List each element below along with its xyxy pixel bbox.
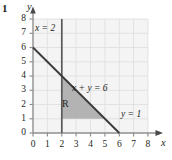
x-tick-label-2: 2 [56, 140, 68, 150]
y-tick-label-1: 1 [14, 114, 26, 124]
x-axis-arrow [156, 130, 164, 136]
problem-number: 1 [2, 3, 8, 14]
figure-container: 1 y x 0 1 2 3 4 5 6 7 8 0 1 2 3 4 5 6 7 … [0, 0, 172, 160]
x-tick-label-5: 5 [99, 140, 111, 150]
annotation-region-r: R [62, 99, 69, 109]
x-tick-label-3: 3 [70, 140, 82, 150]
x-tick-label-4: 4 [85, 140, 97, 150]
y-tick-label-4: 4 [14, 71, 26, 81]
y-tick-label-0: 0 [14, 128, 26, 138]
annotation-x-plus-y-equals-6: x + y = 6 [72, 84, 108, 94]
y-axis-label: y [27, 2, 32, 13]
annotation-x-equals-2: x = 2 [35, 24, 55, 34]
y-tick-label-6: 6 [14, 43, 26, 53]
y-tick-label-3: 3 [14, 85, 26, 95]
x-tick-label-6: 6 [113, 140, 125, 150]
x-tick-label-7: 7 [128, 140, 140, 150]
y-tick-label-5: 5 [14, 57, 26, 67]
annotation-y-equals-1: y = 1 [121, 110, 141, 120]
x-axis-label: x [161, 138, 166, 149]
y-tick-label-7: 7 [14, 28, 26, 38]
x-tick-label-0: 0 [27, 140, 39, 150]
y-tick-label-8: 8 [14, 14, 26, 24]
x-tick-label-8: 8 [142, 140, 154, 150]
x-tick-label-1: 1 [41, 140, 53, 150]
y-tick-label-2: 2 [14, 100, 26, 110]
